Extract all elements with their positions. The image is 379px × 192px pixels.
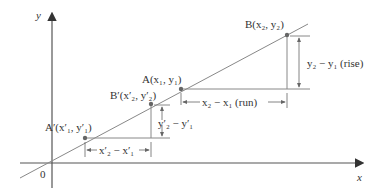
run-label: x₂ − x₁ (run)	[202, 96, 257, 109]
origin-label: 0	[40, 168, 46, 180]
point-b-prime	[149, 102, 153, 106]
large-triangle	[181, 35, 310, 89]
rise-label: y₂ − y₁ (rise)	[307, 57, 364, 70]
rise-prime-label: y′₂ − y′₁	[158, 117, 193, 129]
point-a-prime	[83, 136, 87, 140]
point-a-label: A(x₁, y₁)	[142, 73, 182, 86]
y-axis-label: y	[35, 9, 41, 21]
point-b-prime-label: B′(x′₂, y′₂)	[110, 89, 156, 102]
point-a-prime-label: A′(x′₁, y′₁)	[45, 121, 92, 134]
sloped-line	[20, 24, 308, 178]
point-b-label: B(x₂, y₂)	[245, 18, 284, 31]
point-a	[179, 87, 183, 91]
slope-diagram: y x 0 y₂ − y₁ (rise) x₂ − x₁ (run) y′₂ −…	[0, 0, 379, 192]
point-b	[285, 33, 289, 37]
run-prime-label: x′₂ − x′₁	[99, 144, 134, 156]
x-axis-label: x	[356, 171, 362, 183]
